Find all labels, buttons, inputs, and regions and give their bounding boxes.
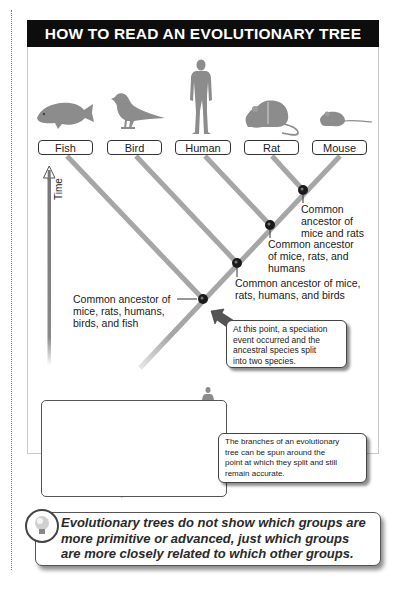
- taxa-silhouettes: [37, 60, 372, 136]
- rotation-inset-panel: [41, 400, 227, 497]
- taxon-label-mouse: Mouse: [312, 140, 367, 155]
- light-bulb-badge: [25, 509, 59, 543]
- annotation-mice-rats-humans: Common ancestor of mice, rats, and human…: [268, 238, 354, 274]
- annotation-root: Common ancestor of mice, rats, humans, b…: [73, 293, 170, 329]
- time-axis-label: Time: [53, 178, 64, 200]
- mouse-icon: [320, 112, 372, 127]
- human-icon: [190, 60, 212, 135]
- speciation-callout: At this point, a speciation event occurr…: [226, 320, 347, 368]
- node-root: [177, 294, 208, 304]
- taxon-label-rat: Rat: [244, 140, 299, 155]
- key-note-text: Evolutionary trees do not show which gro…: [61, 515, 379, 562]
- rotation-callout: The branches of an evolutionary tree can…: [218, 433, 367, 483]
- taxon-label-fish: Fish: [38, 140, 93, 155]
- bird-icon: [111, 93, 165, 129]
- taxon-label-human: Human: [175, 140, 231, 155]
- fish-icon: [37, 103, 94, 129]
- annotation-mice-rats: Common ancestor of mice and rats: [301, 203, 364, 239]
- annotation-mice-rats-humans-birds: Common ancestor of mice, rats, humans, a…: [235, 277, 360, 301]
- rat-icon: [246, 101, 298, 135]
- taxon-label-bird: Bird: [107, 140, 162, 155]
